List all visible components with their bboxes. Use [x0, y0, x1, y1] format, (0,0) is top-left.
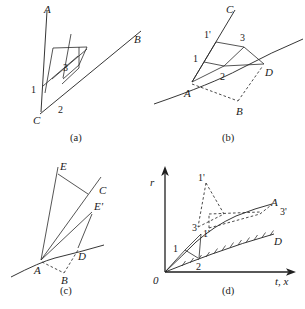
label-a-2: 2 — [58, 104, 63, 115]
label-b-1p: 1' — [204, 29, 211, 40]
seg-2-1 — [204, 62, 224, 66]
label-d-1: 1 — [173, 243, 178, 254]
dash-B-D — [238, 67, 262, 101]
label-d-1p-upper: 1' — [198, 172, 205, 183]
panel-b: C 1' 3 1 D 2 A B — [152, 0, 305, 130]
grid-line-left-vertical — [45, 48, 53, 93]
dash-1p-upper-left — [198, 183, 206, 227]
label-c-C: C — [99, 184, 107, 196]
label-b-B: B — [236, 105, 243, 117]
seg-1-1p — [204, 42, 216, 62]
figure-root: A B C 1 2 3 (a) C 1' 3 1 D 2 A B (b) — [0, 0, 305, 309]
seg-1-3-d — [185, 234, 201, 250]
ray-A-C — [41, 177, 101, 260]
label-d-3p: 3' — [280, 206, 287, 217]
panel-d-caption: (d) — [222, 285, 234, 296]
label-a-C: C — [33, 114, 41, 126]
label-b-1: 1 — [193, 53, 198, 64]
panel-b-caption: (b) — [222, 132, 234, 143]
seg-E-C — [58, 174, 88, 194]
panel-c: E C E' D A B — [0, 152, 152, 287]
seg-1-2-d — [185, 250, 198, 258]
seg-3-2 — [224, 47, 244, 66]
dash-B-D-c — [64, 250, 78, 273]
seg-2-D — [224, 64, 264, 66]
label-b-D: D — [264, 66, 273, 78]
label-b-2: 2 — [220, 71, 225, 82]
label-d-xaxis: t, x — [275, 275, 289, 287]
dash-A-B-c — [42, 262, 64, 273]
panel-c-caption: (c) — [60, 285, 72, 296]
curve-lower-d — [165, 234, 274, 272]
dash-A-B — [192, 84, 238, 101]
grid-line-top — [53, 47, 87, 48]
label-d-A: A — [270, 196, 278, 208]
label-c-D: D — [77, 250, 86, 262]
bottom-caption — [0, 300, 305, 309]
label-c-E: E — [59, 160, 67, 172]
label-c-A: A — [33, 264, 41, 276]
seg-3-2-d — [199, 234, 201, 258]
dash-upper-to-3p — [209, 212, 260, 214]
line-cb — [40, 31, 141, 114]
dash-1p-lower-to-3p — [209, 214, 260, 228]
label-d-1p-lower: 1' — [203, 228, 210, 239]
label-a-3: 3 — [63, 62, 68, 73]
grid-line-right-vertical-upper — [79, 47, 87, 65]
label-d-origin: 0 — [153, 274, 159, 286]
curve-main-c — [11, 245, 104, 277]
label-b-3: 3 — [240, 32, 245, 43]
label-a-B: B — [134, 33, 141, 45]
panel-d: 0 r t, x 1' A 3' 1' 3 D 1 2 — [152, 152, 305, 287]
label-b-C: C — [226, 3, 234, 15]
label-d-D: D — [273, 235, 282, 247]
label-c-Ep: E' — [93, 200, 104, 212]
label-a-A: A — [43, 3, 51, 15]
label-d-3: 3 — [192, 222, 197, 233]
line-ca — [41, 11, 47, 112]
grid-line-upper-horizontal — [52, 49, 87, 79]
dash-1p-upper-right — [206, 183, 224, 214]
panel-a: A B C 1 2 3 — [0, 0, 152, 130]
panel-a-caption: (a) — [70, 132, 82, 143]
label-a-1: 1 — [31, 84, 36, 95]
label-b-A: A — [183, 87, 191, 99]
curve-main-b — [154, 39, 303, 104]
label-d-yaxis: r — [150, 176, 155, 188]
label-d-2: 2 — [196, 261, 201, 272]
curve-upper-d — [165, 204, 272, 272]
